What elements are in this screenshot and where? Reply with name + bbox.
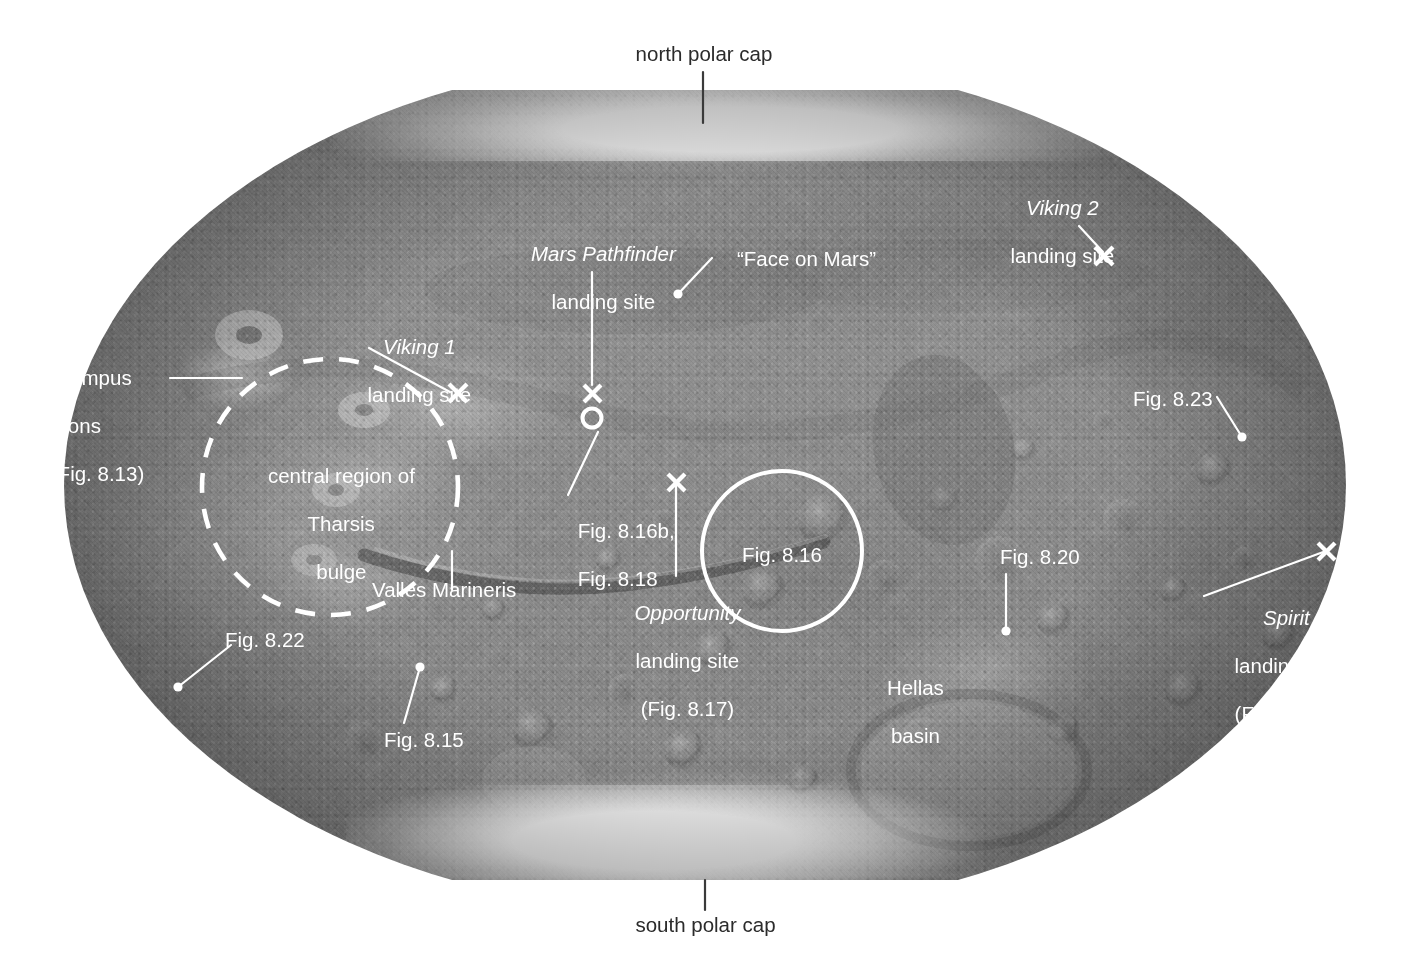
label-spirit: Spirit landing site (Fig. 8.16c) bbox=[1186, 582, 1364, 750]
olympus-mons-line1: Olympus bbox=[51, 366, 132, 389]
olympus-mons-line2: Mons bbox=[51, 414, 101, 437]
label-hellas-basin: Hellas basin bbox=[842, 652, 966, 772]
label-olympus-mons: Olympus Mons (Fig. 8.13) bbox=[28, 342, 144, 510]
viking2-sub: landing site bbox=[1011, 244, 1115, 267]
label-north-polar-cap: north polar cap bbox=[634, 42, 774, 66]
label-opportunity: Opportunity landing site (Fig. 8.17) bbox=[563, 577, 789, 745]
spirit-name: Spirit bbox=[1263, 606, 1310, 629]
label-viking2: Viking 2 landing site bbox=[980, 172, 1122, 292]
hellas-line2: basin bbox=[891, 724, 940, 747]
tharsis-line1: central region of bbox=[268, 464, 415, 487]
mars-pathfinder-name: Mars Pathfinder bbox=[531, 242, 676, 265]
label-face-on-mars: “Face on Mars” bbox=[737, 247, 876, 271]
olympus-mons-line3: (Fig. 8.13) bbox=[51, 462, 144, 485]
opportunity-fig: (Fig. 8.17) bbox=[641, 697, 734, 720]
viking1-sub: landing site bbox=[368, 383, 472, 406]
label-fig-815: Fig. 8.15 bbox=[384, 728, 464, 752]
label-fig-816: Fig. 8.16 bbox=[724, 543, 840, 567]
mars-pathfinder-sub: landing site bbox=[552, 290, 656, 313]
opportunity-name: Opportunity bbox=[634, 601, 740, 624]
mars-map-figure: north polar cap south polar cap Viking 2… bbox=[0, 0, 1409, 979]
label-viking1: Viking 1 landing site bbox=[325, 311, 491, 431]
viking1-name: Viking 1 bbox=[383, 335, 456, 358]
label-fig-820: Fig. 8.20 bbox=[1000, 545, 1080, 569]
spirit-fig: (Fig. 8.16c) bbox=[1235, 702, 1339, 725]
tharsis-line3: bulge bbox=[316, 560, 366, 583]
tharsis-line2: Tharsis bbox=[308, 512, 375, 535]
fig-816b: Fig. 8.16b, bbox=[578, 519, 675, 542]
label-mars-pathfinder: Mars Pathfinder landing site bbox=[471, 218, 713, 338]
opportunity-sub: landing site bbox=[636, 649, 740, 672]
label-valles-marineris: Valles Marineris bbox=[372, 578, 516, 602]
hellas-line1: Hellas bbox=[887, 676, 944, 699]
label-fig-822: Fig. 8.22 bbox=[225, 628, 305, 652]
label-south-polar-cap: south polar cap bbox=[633, 913, 778, 937]
label-fig-823: Fig. 8.23 bbox=[1133, 387, 1213, 411]
spirit-sub: landing site bbox=[1235, 654, 1339, 677]
viking2-name: Viking 2 bbox=[1026, 196, 1099, 219]
